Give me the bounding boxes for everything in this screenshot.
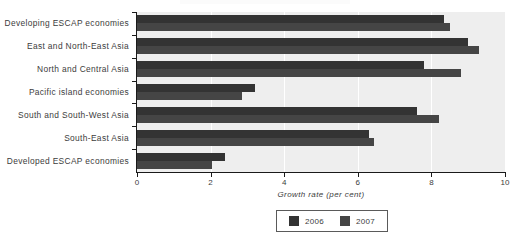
bar-2006-1: [137, 38, 468, 46]
x-axis-line: [136, 172, 506, 173]
bar-chart-figure: Developing ESCAP economiesEast and North…: [0, 0, 530, 240]
y-axis-tick: [132, 103, 137, 104]
x-axis-tick-label-0: 0: [122, 178, 152, 187]
y-axis-tick: [132, 81, 137, 82]
gridline: [358, 12, 359, 172]
bar-2006-5: [137, 130, 369, 138]
x-axis-tick: [505, 173, 506, 177]
x-axis-tick-label-3: 6: [343, 178, 373, 187]
y-axis-tick: [132, 35, 137, 36]
legend-entry-2007[interactable]: 2007: [340, 216, 375, 226]
bar-2006-3: [137, 84, 255, 92]
gridline: [505, 12, 506, 172]
chart-legend: 2006 2007: [276, 210, 388, 232]
x-axis-tick: [211, 173, 212, 177]
legend-swatch-icon-2006: [289, 216, 299, 226]
category-label-1: East and North-East Asia: [0, 41, 129, 51]
bar-2006-4: [137, 107, 417, 115]
category-label-5: South-East Asia: [0, 133, 129, 143]
x-axis-tick: [358, 173, 359, 177]
legend-label-2007: 2007: [356, 217, 375, 226]
bar-2006-6: [137, 153, 225, 161]
bar-2007-3: [137, 92, 242, 100]
y-axis-tick: [132, 58, 137, 59]
y-axis-tick: [132, 126, 137, 127]
x-axis-tick-label-2: 4: [269, 178, 299, 187]
bar-2007-6: [137, 161, 212, 169]
x-axis-tick: [137, 173, 138, 177]
x-axis-tick: [284, 173, 285, 177]
plot-area: [137, 12, 505, 172]
category-axis-labels: Developing ESCAP economiesEast and North…: [0, 12, 133, 172]
x-axis-tick: [431, 173, 432, 177]
bar-2007-4: [137, 115, 439, 123]
bar-2007-0: [137, 23, 450, 31]
x-axis-tick-label-5: 10: [490, 178, 520, 187]
bar-2006-2: [137, 61, 424, 69]
y-axis-tick: [132, 149, 137, 150]
category-label-0: Developing ESCAP economies: [0, 18, 129, 28]
category-label-2: North and Central Asia: [0, 64, 129, 74]
y-axis-tick: [132, 12, 137, 13]
category-label-6: Developed ESCAP economies: [0, 156, 129, 166]
legend-entry-2006[interactable]: 2006: [289, 216, 324, 226]
bar-2006-0: [137, 15, 444, 23]
gridline: [284, 12, 285, 172]
x-axis-title: Growth rate (per cent): [137, 190, 505, 199]
category-label-3: Pacific island economies: [0, 87, 129, 97]
x-axis-tick-label-4: 8: [416, 178, 446, 187]
legend-swatch-icon-2007: [340, 216, 350, 226]
bar-2007-2: [137, 69, 461, 77]
legend-label-2006: 2006: [305, 217, 324, 226]
x-axis-tick-label-1: 2: [196, 178, 226, 187]
cropped-title-remnant: [180, 0, 350, 4]
category-label-4: South and South-West Asia: [0, 110, 129, 120]
bar-2007-5: [137, 138, 374, 146]
bar-2007-1: [137, 46, 479, 54]
gridline: [431, 12, 432, 172]
